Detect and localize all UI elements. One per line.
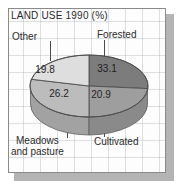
pie-chart: 19.8 33.1 26.2 20.9 — [0, 0, 179, 191]
category-label-cultivated: Cultivated — [94, 136, 138, 147]
slice-value-cultivated: 20.9 — [91, 89, 111, 100]
chart-figure: LAND USE 1990 (%) — [0, 0, 179, 191]
category-label-meadows-line1: Meadows — [11, 135, 64, 146]
category-label-meadows-line2: and pasture — [11, 146, 64, 157]
category-label-forested: Forested — [97, 29, 136, 40]
slice-value-other: 19.8 — [35, 64, 55, 75]
category-label-meadows: Meadows and pasture — [11, 135, 64, 157]
slice-value-meadows: 26.2 — [49, 88, 69, 99]
category-label-other: Other — [12, 31, 37, 42]
slice-value-forested: 33.1 — [97, 63, 117, 74]
